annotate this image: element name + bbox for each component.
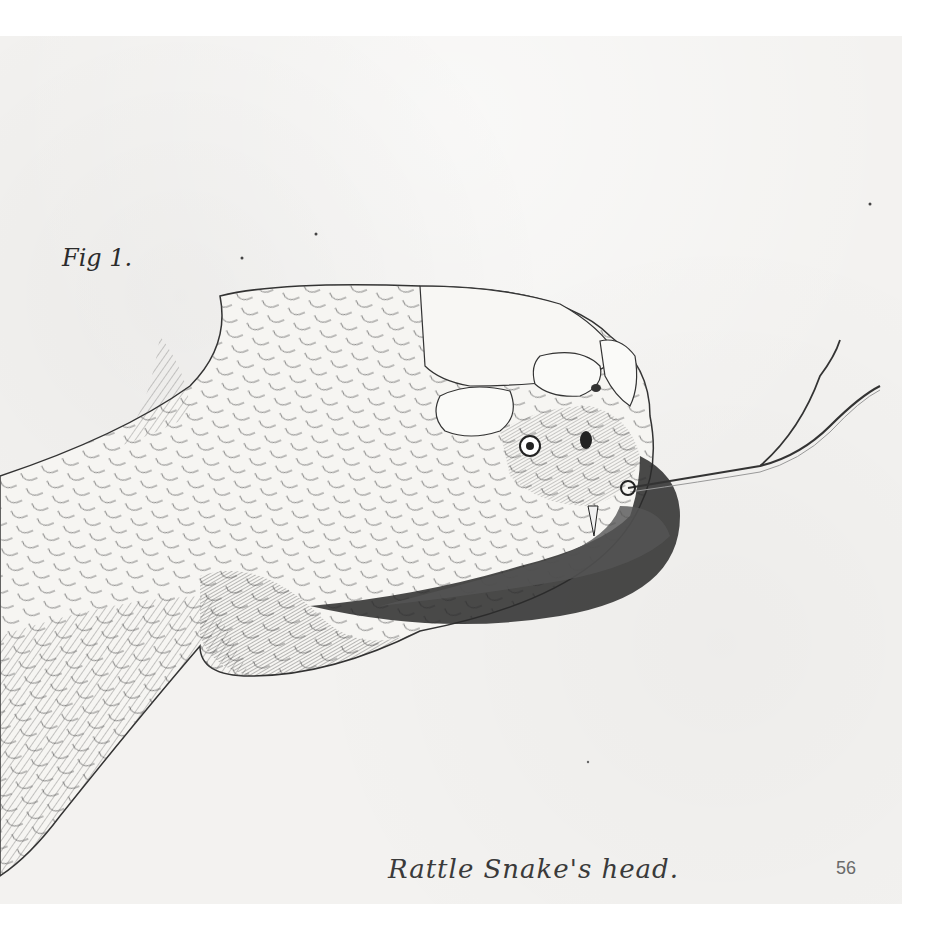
cropped-header-text [80, 0, 280, 4]
paper-sheet: Fig 1. Rattle Snake's head. 56 [0, 36, 902, 904]
page-number: 56 [836, 858, 856, 879]
rattlesnake-head-illustration [0, 36, 902, 904]
figure-label: Fig 1. [62, 244, 132, 272]
plate-caption: Rattle Snake's head. [388, 854, 679, 884]
